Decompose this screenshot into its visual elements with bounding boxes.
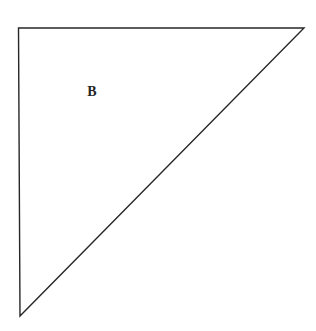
region-label-b: B bbox=[87, 85, 97, 99]
figure-background bbox=[0, 0, 316, 331]
figure-page: { "figure": { "kind": "right-triangle-di… bbox=[0, 0, 316, 331]
figure-canvas: B bbox=[0, 0, 316, 331]
triangle-figure bbox=[0, 0, 316, 331]
